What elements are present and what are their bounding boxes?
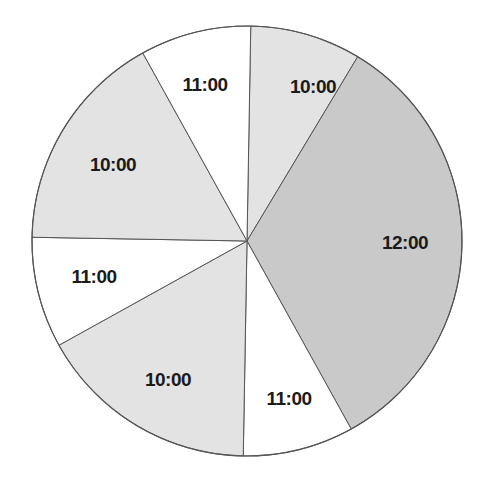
slice-label: 10:00: [90, 154, 136, 175]
slice-label: 11:00: [71, 266, 116, 287]
slice-label: 10:00: [290, 76, 336, 97]
pie-chart: 10:0012:0011:0010:0011:0010:0011:00: [0, 0, 488, 478]
slice-label: 10:00: [145, 369, 191, 390]
slice-label: 11:00: [182, 74, 227, 95]
slice-label: 12:00: [382, 232, 428, 253]
slice-label: 11:00: [266, 388, 311, 409]
